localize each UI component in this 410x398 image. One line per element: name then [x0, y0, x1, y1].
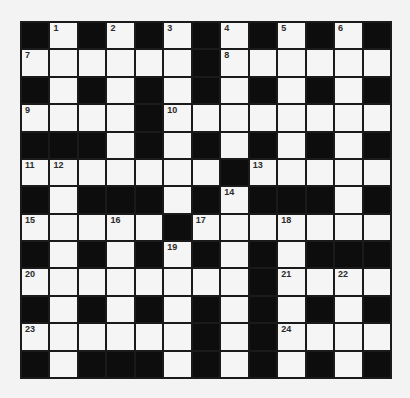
- grid-cell[interactable]: [250, 50, 276, 75]
- grid-cell[interactable]: [164, 269, 190, 294]
- grid-cell[interactable]: [335, 50, 361, 75]
- grid-cell[interactable]: 5: [278, 23, 304, 48]
- grid-cell[interactable]: [107, 133, 133, 158]
- grid-cell[interactable]: [250, 215, 276, 240]
- grid-cell[interactable]: [307, 160, 333, 185]
- grid-cell[interactable]: [79, 105, 105, 130]
- grid-cell[interactable]: [136, 160, 162, 185]
- grid-cell[interactable]: [278, 133, 304, 158]
- grid-cell[interactable]: [107, 297, 133, 322]
- grid-cell[interactable]: 2: [107, 23, 133, 48]
- grid-cell[interactable]: [164, 352, 190, 377]
- grid-cell[interactable]: [193, 105, 219, 130]
- grid-cell[interactable]: [79, 324, 105, 349]
- grid-cell[interactable]: [50, 215, 76, 240]
- grid-cell[interactable]: [164, 297, 190, 322]
- grid-cell[interactable]: [107, 78, 133, 103]
- grid-cell[interactable]: [335, 352, 361, 377]
- grid-cell[interactable]: [221, 324, 247, 349]
- grid-cell[interactable]: [107, 160, 133, 185]
- grid-cell[interactable]: [136, 324, 162, 349]
- grid-cell[interactable]: [307, 105, 333, 130]
- grid-cell[interactable]: 8: [221, 50, 247, 75]
- grid-cell[interactable]: [364, 160, 390, 185]
- grid-cell[interactable]: [221, 133, 247, 158]
- grid-cell[interactable]: [79, 269, 105, 294]
- grid-cell[interactable]: [364, 324, 390, 349]
- grid-cell[interactable]: [107, 242, 133, 267]
- grid-cell[interactable]: [50, 105, 76, 130]
- grid-cell[interactable]: [278, 297, 304, 322]
- grid-cell[interactable]: [107, 269, 133, 294]
- grid-cell[interactable]: [307, 324, 333, 349]
- grid-cell[interactable]: 22: [335, 269, 361, 294]
- grid-cell[interactable]: [136, 269, 162, 294]
- grid-cell[interactable]: [164, 50, 190, 75]
- grid-cell[interactable]: [164, 324, 190, 349]
- grid-cell[interactable]: [79, 50, 105, 75]
- grid-cell[interactable]: [278, 105, 304, 130]
- grid-cell[interactable]: [107, 50, 133, 75]
- grid-cell[interactable]: 10: [164, 105, 190, 130]
- grid-cell[interactable]: [50, 187, 76, 212]
- grid-cell[interactable]: [221, 242, 247, 267]
- grid-cell[interactable]: [164, 160, 190, 185]
- grid-cell[interactable]: [335, 160, 361, 185]
- grid-cell[interactable]: 14: [221, 187, 247, 212]
- grid-cell[interactable]: [364, 105, 390, 130]
- grid-cell[interactable]: 18: [278, 215, 304, 240]
- grid-cell[interactable]: [278, 50, 304, 75]
- grid-cell[interactable]: 3: [164, 23, 190, 48]
- grid-cell[interactable]: [221, 269, 247, 294]
- grid-cell[interactable]: 13: [250, 160, 276, 185]
- grid-cell[interactable]: [221, 352, 247, 377]
- grid-cell[interactable]: [278, 78, 304, 103]
- grid-cell[interactable]: [79, 160, 105, 185]
- grid-cell[interactable]: 17: [193, 215, 219, 240]
- grid-cell[interactable]: [335, 187, 361, 212]
- grid-cell[interactable]: 19: [164, 242, 190, 267]
- grid-cell[interactable]: [278, 352, 304, 377]
- grid-cell[interactable]: [79, 215, 105, 240]
- grid-cell[interactable]: [335, 324, 361, 349]
- grid-cell[interactable]: 7: [22, 50, 48, 75]
- grid-cell[interactable]: [364, 215, 390, 240]
- grid-cell[interactable]: [50, 352, 76, 377]
- grid-cell[interactable]: 11: [22, 160, 48, 185]
- grid-cell[interactable]: 24: [278, 324, 304, 349]
- grid-cell[interactable]: [221, 78, 247, 103]
- grid-cell[interactable]: [335, 133, 361, 158]
- grid-cell[interactable]: [278, 160, 304, 185]
- grid-cell[interactable]: [50, 297, 76, 322]
- grid-cell[interactable]: [50, 324, 76, 349]
- grid-cell[interactable]: 23: [22, 324, 48, 349]
- grid-cell[interactable]: 21: [278, 269, 304, 294]
- grid-cell[interactable]: [164, 187, 190, 212]
- grid-cell[interactable]: [335, 78, 361, 103]
- grid-cell[interactable]: 1: [50, 23, 76, 48]
- grid-cell[interactable]: [364, 50, 390, 75]
- grid-cell[interactable]: 4: [221, 23, 247, 48]
- grid-cell[interactable]: [50, 242, 76, 267]
- grid-cell[interactable]: [250, 105, 276, 130]
- grid-cell[interactable]: [278, 242, 304, 267]
- grid-cell[interactable]: 9: [22, 105, 48, 130]
- grid-cell[interactable]: [107, 105, 133, 130]
- grid-cell[interactable]: [221, 105, 247, 130]
- grid-cell[interactable]: [164, 133, 190, 158]
- grid-cell[interactable]: [335, 105, 361, 130]
- grid-cell[interactable]: [136, 215, 162, 240]
- grid-cell[interactable]: [107, 324, 133, 349]
- grid-cell[interactable]: 6: [335, 23, 361, 48]
- grid-cell[interactable]: 15: [22, 215, 48, 240]
- grid-cell[interactable]: [164, 78, 190, 103]
- grid-cell[interactable]: [50, 50, 76, 75]
- grid-cell[interactable]: [364, 269, 390, 294]
- grid-cell[interactable]: [50, 269, 76, 294]
- grid-cell[interactable]: [193, 269, 219, 294]
- grid-cell[interactable]: [307, 269, 333, 294]
- grid-cell[interactable]: [221, 215, 247, 240]
- grid-cell[interactable]: [50, 78, 76, 103]
- grid-cell[interactable]: 20: [22, 269, 48, 294]
- grid-cell[interactable]: [193, 160, 219, 185]
